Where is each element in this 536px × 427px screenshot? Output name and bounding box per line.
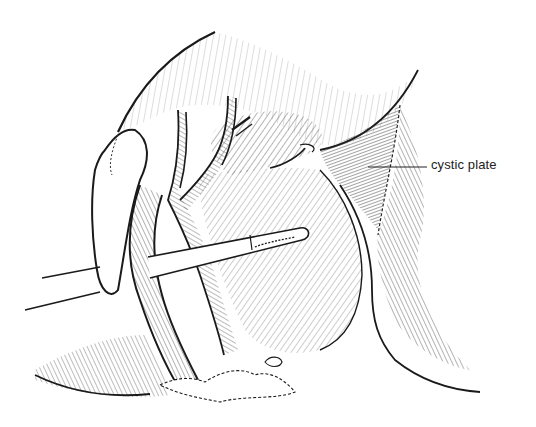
cystic-plate-label: cystic plate <box>431 157 497 172</box>
lower-left-tissue <box>35 335 170 397</box>
anatomical-illustration <box>0 0 536 427</box>
